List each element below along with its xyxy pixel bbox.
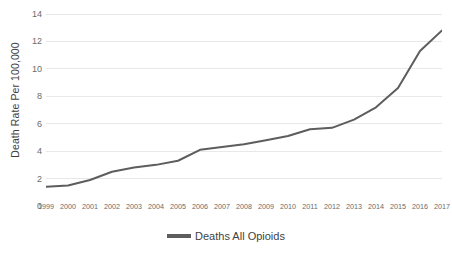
x-tick-label: 1999: [38, 202, 54, 211]
x-tick-label: 2000: [60, 202, 76, 211]
y-tick-label: 12: [16, 36, 42, 46]
y-tick-label: 6: [16, 119, 42, 129]
x-tick-label: 2005: [170, 202, 186, 211]
plot-svg: [46, 14, 442, 206]
y-tick-label: 10: [16, 64, 42, 74]
x-tick-label: 2002: [104, 202, 120, 211]
x-tick-label: 2006: [192, 202, 208, 211]
legend-label: Deaths All Opioids: [195, 230, 285, 242]
x-tick-label: 2015: [390, 202, 406, 211]
x-tick-label: 2011: [302, 202, 317, 211]
plot-area: [46, 14, 442, 206]
x-tick-label: 2016: [412, 202, 428, 211]
x-tick-label: 2001: [82, 202, 98, 211]
x-tick-label: 2009: [258, 202, 274, 211]
y-tick-label: 2: [16, 174, 42, 184]
x-tick-label: 2012: [324, 202, 340, 211]
x-tick-label: 2013: [346, 202, 362, 211]
x-tick-label: 2010: [280, 202, 296, 211]
y-tick-label: 8: [16, 91, 42, 101]
y-tick-label: 14: [16, 9, 42, 19]
x-tick-label: 2007: [214, 202, 230, 211]
x-tick-label: 2008: [236, 202, 252, 211]
series-line: [46, 30, 442, 186]
y-tick-label: 4: [16, 146, 42, 156]
y-axis-tick-labels: 02468101214: [8, 14, 42, 206]
x-tick-label: 2004: [148, 202, 164, 211]
x-tick-label: 2003: [126, 202, 142, 211]
legend-line-swatch-icon: [167, 234, 191, 238]
series-lines: [46, 30, 442, 186]
x-tick-label: 2014: [368, 202, 384, 211]
chart-legend: Deaths All Opioids: [0, 226, 452, 246]
gridlines: [46, 14, 442, 206]
x-axis-tick-labels: 1999200020012002200320042005200620072008…: [46, 202, 442, 216]
opioid-death-rate-line-chart: Death Rate Per 100,000 02468101214 19992…: [0, 0, 452, 256]
x-tick-label: 2017: [434, 202, 450, 211]
